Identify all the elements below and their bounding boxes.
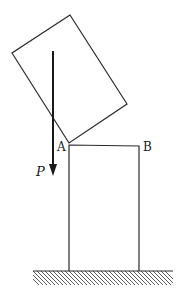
tilted-block [12,15,127,143]
arrowhead-icon [49,164,57,176]
label-force-p: P [35,164,45,179]
label-point-b: B [143,140,152,154]
label-point-a: A [56,140,66,154]
ground-hatching [25,271,179,285]
diagram-canvas: A B P [0,0,181,298]
upright-block [69,145,139,271]
